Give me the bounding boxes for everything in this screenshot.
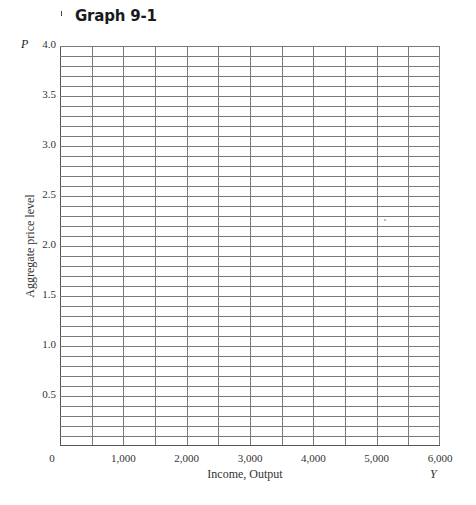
y-tick-label: 4.0 [20,38,56,50]
y-tick-label: 3.0 [20,138,56,150]
x-tick-label: 1,000 [111,452,136,464]
x-tick-label: 5,000 [364,452,389,464]
grid [60,46,440,446]
y-tick-label: 3.5 [20,88,56,100]
x-tick-label: 4,000 [301,452,326,464]
x-tick-label: 3,000 [238,452,263,464]
y-tick-label: 0.5 [20,388,56,400]
y-tick-label: 1.0 [20,338,56,350]
x-tick-label: 2,000 [174,452,199,464]
x-tick-label: 6,000 [428,452,453,464]
x-axis-label: Income, Output [207,467,282,482]
stray-mark [61,11,62,16]
chart-title: Graph 9-1 [75,7,157,25]
y-tick-label: 2.0 [20,238,56,250]
y-tick-label: 1.5 [20,288,56,300]
x-tick-label: 0 [49,452,55,464]
x-axis-symbol: Y [430,467,437,482]
plot-area [60,46,440,446]
speck [384,219,386,221]
y-tick-label: 2.5 [20,188,56,200]
